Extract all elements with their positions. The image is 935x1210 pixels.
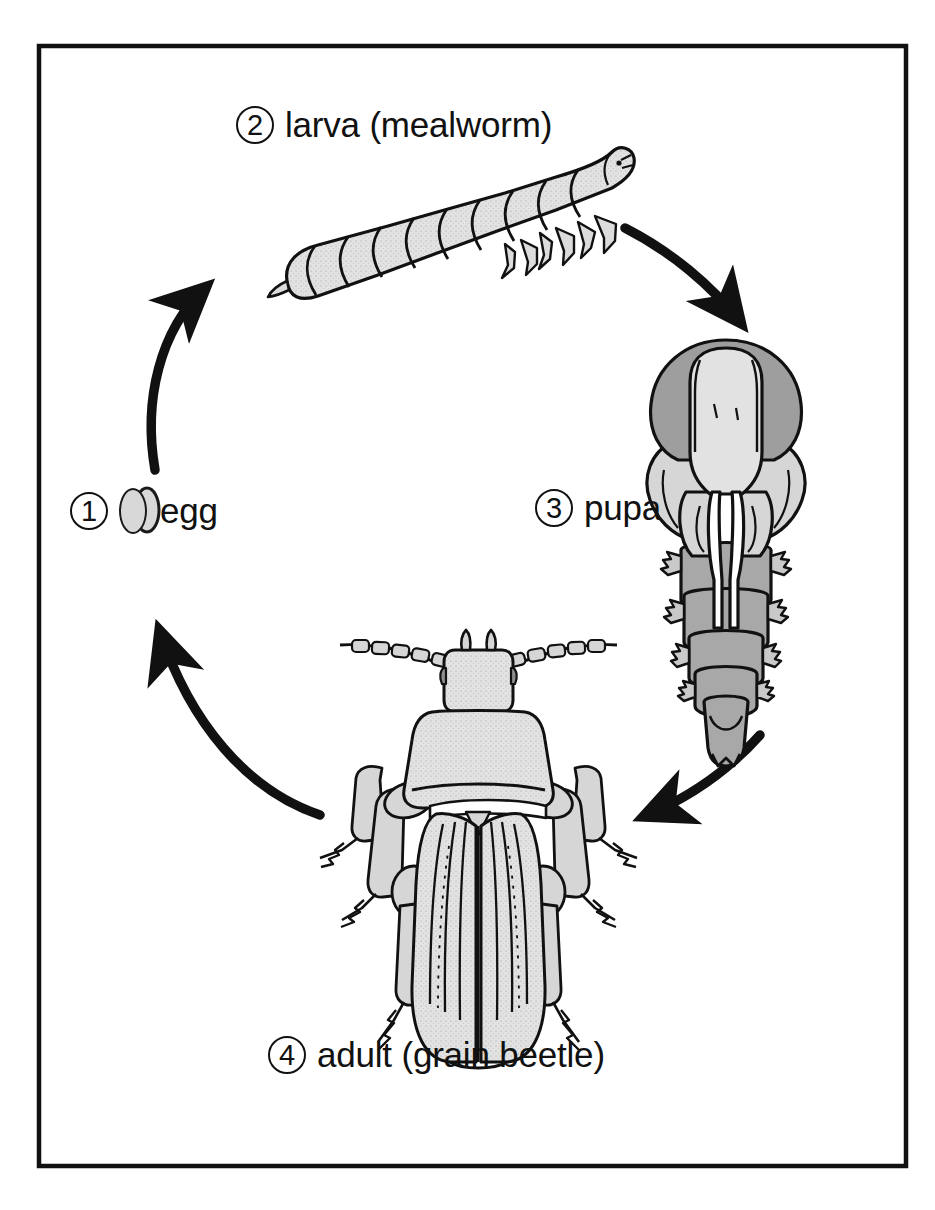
arrow-larva-to-pupa bbox=[625, 228, 740, 322]
beetle-head bbox=[444, 650, 513, 712]
stage-label-larva: 2 larva (mealworm) bbox=[236, 105, 552, 145]
beetle-elytron-left bbox=[412, 814, 476, 1062]
life-cycle-figure: 2 larva (mealworm) 1 egg 3 pupa 4 adult … bbox=[0, 0, 935, 1210]
stage-name-adult: adult (grain beetle) bbox=[317, 1035, 605, 1075]
stage-name-larva: larva (mealworm) bbox=[285, 105, 552, 145]
stage-number-1: 1 bbox=[70, 492, 108, 530]
stage-number-4: 4 bbox=[268, 1036, 306, 1074]
life-cycle-illustration-canvas bbox=[0, 0, 935, 1210]
beetle-pupa-illustration bbox=[647, 340, 805, 766]
stage-number-2: 2 bbox=[236, 106, 274, 144]
beetle-pronotum bbox=[404, 711, 554, 809]
stage-label-egg: 1 egg bbox=[70, 488, 218, 534]
grain-beetle-illustration bbox=[320, 630, 637, 1068]
stage-number-3: 3 bbox=[535, 489, 573, 527]
stage-name-pupa: pupa bbox=[584, 488, 661, 528]
beetle-elytron-right bbox=[481, 814, 545, 1062]
stage-label-adult: 4 adult (grain beetle) bbox=[268, 1035, 605, 1075]
stage-name-egg: egg bbox=[160, 491, 218, 531]
mealworm-larva-illustration bbox=[268, 148, 634, 299]
pupa-head-plate bbox=[690, 348, 762, 494]
stage-label-pupa: 3 pupa bbox=[535, 488, 661, 528]
egg-oval-icon-inline bbox=[119, 488, 147, 534]
arrow-egg-to-larva bbox=[151, 288, 205, 470]
arrow-adult-to-egg bbox=[160, 632, 320, 815]
